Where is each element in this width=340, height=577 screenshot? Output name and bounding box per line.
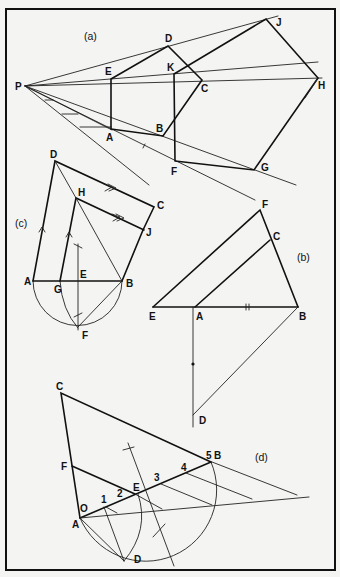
point-label-F: F — [82, 330, 88, 341]
point-label-P: P — [15, 81, 22, 92]
point-label-B: B — [214, 450, 221, 461]
point-label-C: C — [201, 83, 208, 94]
point-label-G: G — [261, 162, 269, 173]
point-label-E: E — [133, 482, 140, 493]
point-label-E: E — [80, 269, 87, 280]
point-label-A: A — [196, 311, 203, 322]
point-label-F: F — [171, 166, 177, 177]
point-label-A: A — [24, 276, 31, 287]
panel-c: (c) A G E B D H C J F — [15, 149, 164, 341]
point-label-J: J — [146, 227, 152, 238]
point-label-4: 4 — [181, 462, 187, 473]
point-label-D: D — [134, 554, 141, 565]
point-label-B: B — [126, 278, 133, 289]
point-label-G: G — [54, 284, 62, 295]
point-label-C: C — [157, 200, 164, 211]
panel-d: (d) C F O A 1 2 E 3 4 5 B D — [56, 381, 309, 566]
point-label-2: 2 — [117, 488, 123, 499]
point-label-D: D — [50, 149, 57, 160]
point-label-D: D — [199, 415, 206, 426]
point-label-C: C — [273, 231, 280, 242]
point-label-F: F — [262, 199, 268, 210]
point-label-O: O — [80, 503, 88, 514]
point-label-H: H — [78, 187, 85, 198]
point-label-C: C — [56, 381, 63, 392]
point-label-E: E — [105, 66, 112, 77]
panel-b-caption: (b) — [297, 251, 310, 263]
point-label-F: F — [61, 461, 67, 472]
panel-a-caption: (a) — [84, 30, 97, 42]
point-label-K: K — [167, 62, 175, 73]
point-label-1: 1 — [101, 494, 107, 505]
panel-d-caption: (d) — [255, 451, 268, 463]
geometry-diagram: (a) P A B C D E F G H J K (c) A G E — [0, 0, 340, 577]
point-label-E: E — [149, 311, 156, 322]
point-label-3: 3 — [154, 472, 160, 483]
point-label-B: B — [299, 311, 306, 322]
point-label-A: A — [72, 519, 79, 530]
point-label-B: B — [156, 123, 163, 134]
point-label-D: D — [165, 33, 172, 44]
point-label-5: 5 — [206, 450, 212, 461]
point-label-J: J — [276, 17, 282, 28]
point-label-A: A — [106, 132, 113, 143]
panel-c-caption: (c) — [15, 217, 27, 229]
point-label-H: H — [318, 80, 325, 91]
panel-b: (b) E A B C F D — [149, 199, 310, 427]
